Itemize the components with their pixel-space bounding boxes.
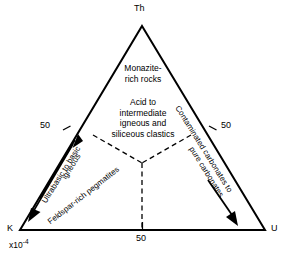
field-label-acid-line4: siliceous clastics	[87, 129, 199, 140]
field-label-monazite-line1: Monazite-	[103, 63, 183, 74]
tick-label-bottom: 50	[136, 233, 146, 244]
vertex-label-u: U	[271, 223, 278, 234]
tick-label-right: 50	[221, 120, 231, 131]
scale-note: x10-4	[9, 238, 29, 250]
tick-mark-left	[63, 126, 71, 130]
field-label-monazite-line2: rich rocks	[103, 74, 183, 85]
field-label-monazite: Monazite- rich rocks	[103, 63, 183, 84]
scale-note-base: x10	[9, 240, 23, 250]
tick-mark-right	[209, 126, 217, 130]
vertex-label-k: K	[7, 223, 13, 234]
scale-note-exponent: -4	[23, 238, 29, 245]
tick-label-left: 50	[40, 120, 50, 131]
vertex-label-th: Th	[134, 3, 145, 14]
